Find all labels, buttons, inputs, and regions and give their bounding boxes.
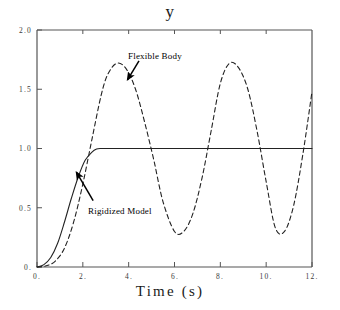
annotation-flexible-body: Flexible Body: [128, 51, 182, 61]
y-tick-label-2-0: 2.0: [2, 26, 32, 35]
annotation-rigidized-model: Rigidized Model: [88, 206, 152, 216]
x-axis-title: Time (s): [0, 283, 340, 300]
plot-canvas: [0, 0, 340, 310]
y-axis-ticks: [37, 30, 42, 267]
x-tick-label-6: 6.: [163, 272, 187, 281]
x-tick-label-2: 2.: [71, 272, 95, 281]
data-series-layer: [37, 62, 312, 267]
annotation-arrow-0: [128, 61, 139, 80]
x-tick-label-0: 0.: [25, 272, 49, 281]
x-tick-label-10: 10.: [254, 272, 278, 281]
annotation-arrow-layer: [76, 61, 139, 201]
y-tick-label-1-0: 1.0: [2, 144, 32, 153]
y-tick-label-0: 0.: [2, 263, 32, 272]
x-tick-label-8: 8.: [208, 272, 232, 281]
chart-figure: y: [0, 0, 340, 310]
y-tick-label-1-5: 1.5: [2, 85, 32, 94]
series-line-flexible-body: [37, 62, 312, 267]
x-tick-label-12: 12.: [300, 272, 324, 281]
y-tick-label-0-5: 0.5: [2, 204, 32, 213]
x-tick-label-4: 4.: [117, 272, 141, 281]
